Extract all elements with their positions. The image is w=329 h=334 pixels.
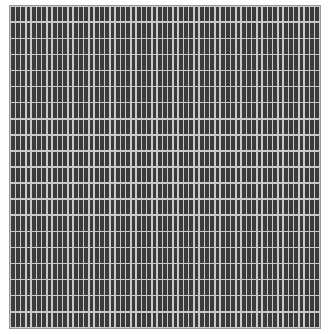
grid-cell: [69, 168, 73, 183]
grid-cell: [158, 168, 162, 183]
grid-cell: [21, 23, 25, 37]
grid-cell: [210, 184, 214, 198]
grid-cell: [289, 280, 293, 294]
grid-cell: [121, 71, 125, 85]
grid-cell: [121, 136, 125, 150]
grid-cell: [95, 23, 99, 37]
grid-cell: [315, 39, 319, 53]
grid-cell: [48, 55, 52, 69]
grid-cell: [142, 87, 146, 101]
grid-cell: [21, 136, 25, 150]
grid-cell: [279, 200, 283, 214]
grid-cell: [116, 232, 120, 246]
grid-cell: [168, 39, 172, 53]
grid-cell: [84, 296, 88, 310]
grid-cell: [258, 313, 262, 327]
grid-cell: [11, 136, 15, 150]
grid-cell: [126, 168, 130, 183]
grid-cell: [53, 120, 57, 134]
grid-cell: [37, 280, 41, 294]
grid-cell: [84, 103, 88, 117]
grid-cell: [263, 87, 267, 101]
grid-cell: [74, 136, 78, 150]
grid-cell: [237, 23, 241, 37]
grid-cell: [100, 87, 104, 101]
grid-cell: [200, 152, 204, 166]
grid-cell: [79, 313, 83, 327]
grid-cell: [153, 184, 157, 198]
grid-cell: [16, 120, 20, 134]
grid-cell: [252, 313, 256, 327]
grid-cell: [21, 168, 25, 183]
grid-cell: [258, 248, 262, 262]
grid-cell: [305, 280, 309, 294]
grid-cell: [147, 39, 151, 53]
grid-cell: [258, 103, 262, 117]
grid-cell: [42, 184, 46, 198]
grid-cell: [37, 55, 41, 69]
grid-cell: [247, 248, 251, 262]
grid-cell: [84, 200, 88, 214]
grid-cell: [226, 23, 230, 37]
grid-cell: [69, 120, 73, 134]
grid-cell: [48, 313, 52, 327]
grid-cell: [147, 313, 151, 327]
grid-cell: [289, 39, 293, 53]
grid-cell: [252, 120, 256, 134]
grid-cell: [74, 87, 78, 101]
grid-cell: [84, 313, 88, 327]
grid-cell: [27, 264, 31, 278]
grid-cell: [273, 103, 277, 117]
grid-cell: [294, 216, 298, 230]
grid-cell: [284, 39, 288, 53]
grid-cell: [263, 55, 267, 69]
grid-cell: [121, 55, 125, 69]
grid-cell: [242, 87, 246, 101]
grid-cell: [95, 136, 99, 150]
grid-cell: [32, 184, 36, 198]
grid-cell: [27, 103, 31, 117]
grid-cell: [279, 39, 283, 53]
grid-cell: [11, 103, 15, 117]
grid-cell: [69, 200, 73, 214]
grid-cell: [95, 87, 99, 101]
grid-cell: [105, 184, 109, 198]
grid-cell: [58, 120, 62, 134]
grid-cell: [116, 120, 120, 134]
grid-cell: [258, 200, 262, 214]
grid-cell: [252, 200, 256, 214]
grid-cell: [132, 313, 136, 327]
grid-cell: [195, 71, 199, 85]
grid-cell: [179, 120, 183, 134]
grid-cell: [279, 296, 283, 310]
grid-cell: [163, 184, 167, 198]
grid-cell: [116, 71, 120, 85]
grid-cell: [237, 136, 241, 150]
grid-cell: [289, 168, 293, 183]
grid-cell: [189, 39, 193, 53]
grid-cell: [258, 71, 262, 85]
grid-cell: [32, 136, 36, 150]
grid-cell: [126, 152, 130, 166]
grid-cell: [53, 103, 57, 117]
grid-cell: [189, 264, 193, 278]
grid-cell: [137, 87, 141, 101]
grid-cell: [111, 71, 115, 85]
grid-cell: [310, 87, 314, 101]
grid-cell: [11, 23, 15, 37]
grid-cell: [216, 39, 220, 53]
grid-cell: [179, 87, 183, 101]
grid-cell: [179, 280, 183, 294]
grid-cell: [27, 7, 31, 21]
grid-cell: [315, 136, 319, 150]
grid-cell: [69, 103, 73, 117]
grid-cell: [37, 264, 41, 278]
grid-cell: [237, 152, 241, 166]
grid-cell: [273, 7, 277, 21]
grid-cell: [189, 296, 193, 310]
grid-cell: [63, 152, 67, 166]
grid-cell: [195, 232, 199, 246]
grid-cell: [84, 120, 88, 134]
grid-cell: [247, 168, 251, 183]
grid-cell: [279, 120, 283, 134]
